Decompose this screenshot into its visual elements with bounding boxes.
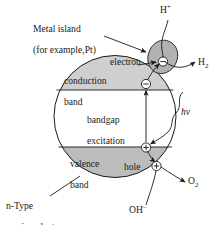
hole-label: hole (124, 162, 141, 173)
proton-charge: + (167, 3, 171, 10)
metal-island-label-line2: (for example,Pt) (33, 44, 96, 55)
proton-label: H+ (160, 5, 171, 16)
electron-label: electron (110, 57, 141, 68)
metal-island-label: Metal island (for example,Pt) (33, 13, 96, 56)
hole-at-surface-icon (152, 161, 161, 170)
hydrogen-symbol: H (198, 56, 205, 67)
electron-at-band-edge-icon (141, 79, 150, 88)
bandgap-label-line2: excitation (87, 135, 125, 146)
hydrogen-subscript: 2 (205, 62, 208, 69)
oxygen-label: O2 (188, 176, 198, 187)
conduction-band-label-line2: band (64, 96, 83, 107)
conduction-band-label-line1: conduction (64, 75, 107, 86)
electron-on-metal-icon (158, 57, 167, 66)
bandgap-excitation-label: bandgap excitation (87, 104, 125, 147)
n-type-semiconductor-label: n-Type semiconductor (6, 190, 62, 225)
proton-symbol: H (160, 4, 167, 15)
valence-band-label-line1: valence (70, 158, 99, 169)
hydroxide-input-curve (146, 171, 156, 205)
hydroxide-symbol: OH (129, 204, 143, 215)
oxygen-symbol: O (188, 175, 195, 186)
hydrogen-label: H2 (198, 57, 208, 68)
valence-band-label-line2: band (70, 179, 89, 190)
hydroxide-charge: – (143, 203, 146, 210)
photocatalysis-diagram: Metal island (for example,Pt) H+ H2 elec… (0, 0, 221, 225)
metal-island-label-line1: Metal island (33, 23, 81, 34)
conduction-band-label: conduction band (64, 65, 107, 108)
oxygen-output-arrow (161, 167, 185, 182)
n-type-label-line2: semiconductor (6, 221, 62, 225)
bandgap-label-line1: bandgap (87, 114, 120, 125)
n-type-label-line1: n-Type (6, 200, 33, 211)
hole-at-band-edge-icon (141, 143, 150, 152)
photon-label: hv (181, 107, 190, 118)
oxygen-subscript: 2 (195, 181, 198, 188)
hydroxide-label: OH– (129, 205, 146, 216)
valence-band-label: valence band (70, 148, 99, 191)
metal-island-leader-line (104, 36, 146, 52)
